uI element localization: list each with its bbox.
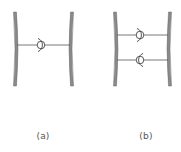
panel-label-b: (b) (139, 131, 152, 141)
right-membrane-a (69, 12, 74, 86)
panel-b (114, 12, 172, 86)
panel-a (14, 12, 74, 86)
socket-arc-icon (38, 39, 42, 52)
right-membrane-b (167, 12, 172, 86)
socket-arc-icon (139, 54, 143, 67)
ball-icon (136, 31, 144, 39)
linker-b-1 (117, 29, 168, 42)
socket-arc-icon (137, 29, 141, 42)
ball-icon (136, 56, 144, 64)
linker-a-1 (17, 39, 70, 52)
linker-b-2 (117, 54, 168, 67)
left-membrane-b (114, 12, 119, 86)
diagram-canvas (0, 0, 181, 152)
panel-label-a: (a) (36, 131, 49, 141)
ball-icon (37, 41, 45, 49)
left-membrane-a (14, 12, 19, 86)
diagram-figure: (a) (b) (0, 0, 181, 152)
